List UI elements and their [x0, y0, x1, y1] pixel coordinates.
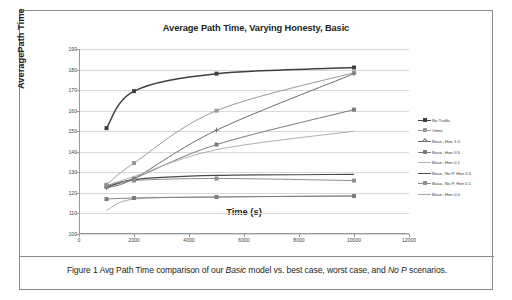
legend-label: Basic, No P, Hon 0.5: [432, 171, 471, 176]
x-axis-tick-label: 0: [64, 237, 94, 243]
data-point-marker: [132, 89, 136, 93]
y-axis-tick-label: 140: [51, 149, 77, 155]
series-layer: [79, 49, 409, 234]
data-point-marker: [352, 108, 356, 112]
plot-area: 100110120130140150160170180190 020004000…: [79, 49, 409, 234]
legend-label: Basic, Hon 1.0: [432, 139, 460, 144]
series-line: [107, 74, 355, 188]
legend-swatch-icon: [418, 117, 431, 124]
caption-emphasis-basic: Basic: [226, 265, 247, 275]
legend-item[interactable]: Omni: [418, 126, 494, 137]
data-point-marker: [132, 161, 136, 165]
data-point-marker: [215, 143, 219, 147]
data-point-marker: [352, 194, 356, 198]
legend-label: Basic, No P, Hon 0.1: [432, 181, 471, 186]
data-point-marker: [105, 126, 109, 130]
y-axis-tick-label: 120: [51, 190, 77, 196]
data-point-marker: [215, 177, 219, 181]
caption-suffix: scenarios.: [407, 265, 447, 275]
legend-item[interactable]: Basic, Hon 0.5: [418, 147, 494, 158]
series-line: [107, 73, 355, 185]
data-point-marker: [105, 197, 109, 201]
y-axis-label: AveragePath Time: [16, 8, 26, 89]
legend-item[interactable]: Basic, No P, Hon 0.1: [418, 179, 494, 190]
legend-swatch-icon: [418, 170, 431, 177]
y-axis-tick-label: 160: [51, 108, 77, 114]
legend-item[interactable]: No Traffic: [418, 115, 494, 126]
legend-swatch-icon: [418, 159, 431, 166]
y-axis-tick-label: 180: [51, 67, 77, 73]
x-axis-tick-mark: [79, 234, 80, 237]
y-axis-tick-label: 110: [51, 210, 77, 216]
y-axis-tick-label: 130: [51, 169, 77, 175]
caption-emphasis-nop: No P: [388, 265, 407, 275]
chart-legend: No TrafficOmniBasic, Hon 1.0Basic, Hon 0…: [418, 115, 494, 200]
caption-prefix: Figure 1 Avg Path Time comparison of our: [67, 265, 226, 275]
x-axis-tick-label: 4000: [174, 237, 204, 243]
data-point-marker: [215, 109, 219, 113]
series-line: [107, 179, 355, 186]
y-axis-tick-label: 170: [51, 87, 77, 93]
legend-label: No Traffic: [432, 118, 450, 123]
x-axis-tick-mark: [409, 234, 410, 237]
data-point-marker: [215, 72, 219, 76]
x-axis-tick-label: 6000: [229, 237, 259, 243]
x-axis-tick-mark: [354, 234, 355, 237]
data-point-marker: [214, 128, 219, 133]
data-point-marker: [132, 196, 136, 200]
legend-swatch-icon: [418, 191, 431, 198]
legend-label: Basic, Hon 0.1: [432, 160, 460, 165]
y-axis-tick-label: 190: [51, 46, 77, 52]
x-axis-tick-mark: [244, 234, 245, 237]
x-axis-tick-mark: [134, 234, 135, 237]
x-axis-tick-mark: [189, 234, 190, 237]
legend-label: Omni: [432, 128, 442, 133]
series-line: [107, 131, 355, 185]
legend-item[interactable]: Basic, Hon 1.0: [418, 136, 494, 147]
legend-item[interactable]: Basic, Hon 0.0: [418, 189, 494, 200]
x-axis-tick-label: 10000: [339, 237, 369, 243]
x-axis-tick-mark: [299, 234, 300, 237]
legend-swatch-icon: [418, 127, 431, 134]
figure-card: Average Path Time, Varying Honesty, Basi…: [19, 10, 493, 290]
legend-item[interactable]: Basic, Hon 0.1: [418, 157, 494, 168]
series-line: [107, 174, 355, 187]
data-point-marker: [352, 66, 356, 70]
caption-divider: [20, 256, 494, 257]
x-axis-tick-label: 2000: [119, 237, 149, 243]
data-point-marker: [132, 179, 136, 183]
y-axis-tick-label: 150: [51, 128, 77, 134]
legend-swatch-icon: [418, 138, 431, 145]
x-axis-tick-label: 12000: [394, 237, 424, 243]
data-point-marker: [105, 184, 109, 188]
legend-label: Basic, Hon 0.5: [432, 150, 460, 155]
legend-item[interactable]: Basic, No P, Hon 0.5: [418, 168, 494, 179]
caption-middle: model vs. best case, worst case, and: [246, 265, 388, 275]
figure-caption: Figure 1 Avg Path Time comparison of our…: [20, 265, 494, 275]
legend-swatch-icon: [418, 180, 431, 187]
data-point-marker: [352, 179, 356, 183]
legend-swatch-icon: [418, 149, 431, 156]
legend-label: Basic, Hon 0.0: [432, 192, 460, 197]
data-point-marker: [215, 195, 219, 199]
x-axis-tick-label: 8000: [284, 237, 314, 243]
